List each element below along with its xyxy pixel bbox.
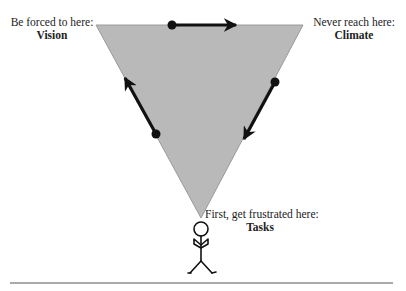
climate-caption: Never reach here: — [313, 16, 395, 28]
inverted-triangle — [96, 25, 303, 218]
climate-title: Climate — [308, 29, 400, 42]
cycle-diagram — [0, 0, 406, 291]
tasks-label: First, get frustrated here: Tasks — [205, 208, 315, 234]
vision-caption: Be forced to here: — [11, 16, 94, 28]
vision-title: Vision — [6, 29, 98, 42]
climate-label: Never reach here: Climate — [308, 16, 400, 42]
tasks-title: Tasks — [205, 221, 315, 234]
vision-label: Be forced to here: Vision — [6, 16, 98, 42]
tasks-caption: First, get frustrated here: — [205, 208, 319, 220]
